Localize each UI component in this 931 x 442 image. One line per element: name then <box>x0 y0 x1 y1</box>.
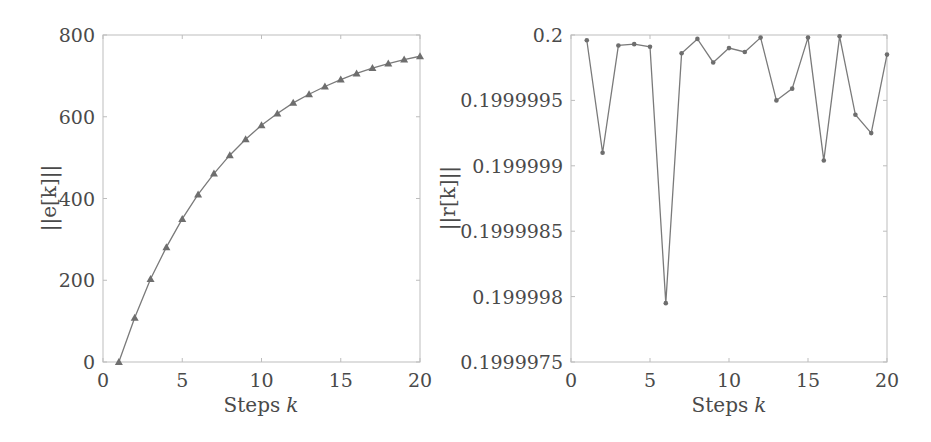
chart-residual-norm: 05101520 0.19999750.1999980.19999850.199… <box>436 24 899 417</box>
data-point-dot <box>616 43 621 48</box>
data-point-dot <box>695 37 700 42</box>
data-point-triangle <box>305 90 313 97</box>
data-point-triangle <box>131 314 139 321</box>
data-point-dot <box>837 34 842 39</box>
x-axis-label: Stepsk <box>692 393 767 417</box>
data-point-dot <box>758 35 763 40</box>
x-tick-label: 15 <box>329 369 353 391</box>
x-tick-label: 15 <box>796 369 820 391</box>
data-point-triangle <box>147 275 155 282</box>
data-series <box>585 34 890 305</box>
y-tick-label: 0.1999985 <box>460 220 563 242</box>
data-point-triangle <box>416 52 424 59</box>
y-tick-label: 200 <box>59 269 95 291</box>
data-point-dot <box>648 44 653 49</box>
x-ticks: 05101520 <box>97 35 432 391</box>
y-tick-label: 0.199999 <box>472 155 563 177</box>
data-point-dot <box>632 42 637 47</box>
data-point-dot <box>869 131 874 136</box>
data-point-triangle <box>321 83 329 90</box>
y-tick-label: 0.1999975 <box>460 351 563 373</box>
x-tick-label: 10 <box>249 369 273 391</box>
x-axis-label: Stepsk <box>224 393 299 417</box>
y-tick-label: 400 <box>59 188 95 210</box>
data-point-dot <box>679 51 684 56</box>
data-point-dot <box>774 98 779 103</box>
data-point-dot <box>600 150 605 155</box>
y-tick-label: 0.2 <box>533 24 563 46</box>
figure: 05101520 0200400600800 Stepsk ||e[k]|| 0… <box>0 0 931 442</box>
y-tick-label: 600 <box>59 106 95 128</box>
data-point-triangle <box>162 243 170 250</box>
data-point-triangle <box>289 99 297 106</box>
y-ticks: 0200400600800 <box>59 24 420 373</box>
x-ticks: 05101520 <box>565 35 899 391</box>
x-tick-label: 10 <box>717 369 741 391</box>
data-point-dot <box>727 46 732 51</box>
series-line <box>587 36 887 303</box>
data-point-dot <box>885 52 890 57</box>
data-series <box>115 52 424 365</box>
y-tick-label: 0 <box>83 351 95 373</box>
x-tick-label: 20 <box>408 369 432 391</box>
x-tick-label: 0 <box>565 369 577 391</box>
y-axis-label: ||r[k]|| <box>436 166 461 230</box>
data-point-triangle <box>258 121 266 128</box>
y-tick-label: 800 <box>59 24 95 46</box>
chart-error-norm: 05101520 0200400600800 Stepsk ||e[k]|| <box>37 24 432 417</box>
data-point-triangle <box>178 215 186 222</box>
data-point-dot <box>853 112 858 117</box>
x-tick-label: 0 <box>97 369 109 391</box>
x-tick-label: 5 <box>644 369 656 391</box>
x-tick-label: 5 <box>176 369 188 391</box>
y-axis-label: ||e[k]|| <box>37 165 62 232</box>
data-point-dot <box>790 86 795 91</box>
data-point-dot <box>822 158 827 163</box>
series-line <box>119 56 420 362</box>
data-point-triangle <box>273 109 281 116</box>
y-ticks: 0.19999750.1999980.19999850.1999990.1999… <box>460 24 887 373</box>
plot-frame <box>103 35 420 362</box>
data-point-dot <box>711 60 716 65</box>
data-point-dot <box>664 301 669 306</box>
y-tick-label: 0.1999995 <box>460 89 563 111</box>
plot-frame <box>571 35 887 362</box>
x-tick-label: 20 <box>875 369 899 391</box>
data-point-dot <box>806 35 811 40</box>
data-point-dot <box>743 50 748 55</box>
y-tick-label: 0.199998 <box>472 286 563 308</box>
data-point-dot <box>585 38 590 43</box>
